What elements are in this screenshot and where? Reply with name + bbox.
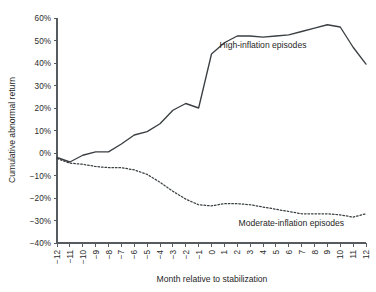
y-axis-ticks: 60%50%40%30%20%10%0%−10%−20%−30%−40% — [30, 14, 57, 248]
x-tick-label: 8 — [311, 250, 320, 255]
series-line-dotted — [57, 159, 366, 218]
x-tick-label: −5 — [143, 250, 152, 260]
x-axis-ticks: −12−11−10−9−8−7−6−5−4−3−2−10123456789101… — [53, 243, 371, 264]
x-tick-label: −10 — [79, 250, 88, 264]
x-tick-label: −11 — [66, 250, 75, 264]
chart-container: 60%50%40%30%20%10%0%−10%−20%−30%−40% −12… — [0, 0, 376, 292]
x-tick-label: 0 — [208, 250, 217, 255]
y-tick-label: 60% — [35, 14, 51, 23]
y-tick-label: 0% — [39, 149, 51, 158]
series-annotations: High-inflation episodesModerate-inflatio… — [220, 40, 345, 228]
x-tick-label: 6 — [285, 250, 294, 255]
y-axis-group: 60%50%40%30%20%10%0%−10%−20%−30%−40% — [30, 14, 57, 248]
x-tick-label: −1 — [195, 250, 204, 260]
x-tick-label: −6 — [130, 250, 139, 260]
x-tick-label: 2 — [233, 250, 242, 255]
y-tick-label: −40% — [30, 239, 51, 248]
series-layer — [57, 25, 366, 217]
x-tick-label: 1 — [220, 250, 229, 255]
x-axis-group: −12−11−10−9−8−7−6−5−4−3−2−10123456789101… — [53, 243, 371, 264]
series-annotation-label: High-inflation episodes — [220, 40, 307, 50]
x-tick-label: −4 — [156, 250, 165, 260]
y-tick-label: 30% — [35, 82, 51, 91]
x-tick-label: 5 — [272, 250, 281, 255]
y-tick-label: −20% — [30, 194, 51, 203]
y-tick-label: 20% — [35, 104, 51, 113]
y-tick-label: −30% — [30, 217, 51, 226]
series-annotation-label: Moderate-inflation episodes — [239, 218, 345, 228]
y-tick-label: 40% — [35, 59, 51, 68]
x-tick-label: 12 — [362, 250, 371, 260]
x-axis-title: Month relative to stabilization — [157, 274, 268, 284]
x-tick-label: −12 — [53, 250, 62, 264]
x-tick-label: −8 — [105, 250, 114, 260]
x-tick-label: −7 — [117, 250, 126, 260]
x-tick-label: 7 — [298, 250, 307, 255]
x-tick-label: −3 — [169, 250, 178, 260]
x-tick-label: −2 — [182, 250, 191, 260]
x-tick-label: 9 — [323, 250, 332, 255]
x-tick-label: 10 — [336, 250, 345, 260]
cumulative-abnormal-return-chart: 60%50%40%30%20%10%0%−10%−20%−30%−40% −12… — [0, 0, 376, 292]
y-tick-label: 50% — [35, 37, 51, 46]
x-tick-label: −9 — [92, 250, 101, 260]
y-axis-title: Cumulative abnormal return — [7, 77, 17, 183]
x-tick-label: 3 — [246, 250, 255, 255]
x-tick-label: 4 — [259, 250, 268, 255]
y-tick-label: −10% — [30, 172, 51, 181]
x-tick-label: 11 — [349, 250, 358, 259]
series-line-solid — [57, 25, 366, 162]
y-tick-label: 10% — [35, 127, 51, 136]
